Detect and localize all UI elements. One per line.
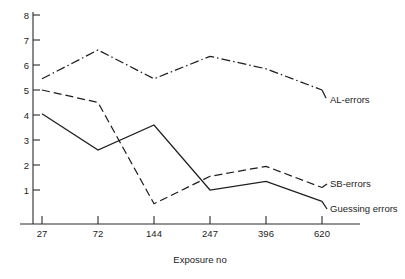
series-label-guessing-errors: Guessing errors xyxy=(330,203,398,214)
y-tick-label-8: 8 xyxy=(24,10,29,21)
y-tick-label-6: 6 xyxy=(24,60,29,71)
x-tick-label-27: 27 xyxy=(37,228,48,239)
y-tick-label-5: 5 xyxy=(24,85,29,96)
x-axis-title: Exposure no xyxy=(173,254,226,265)
x-tick-label-72: 72 xyxy=(93,228,104,239)
y-tick-label-3: 3 xyxy=(24,135,29,146)
y-tick-label-7: 7 xyxy=(24,35,29,46)
x-tick-label-247: 247 xyxy=(202,228,218,239)
leader-line-guessing-errors xyxy=(322,201,327,209)
series-line-guessing-errors xyxy=(42,114,322,202)
chart-canvas: 8 7 6 5 4 3 2 1 27 72 144 247 396 620 Ex… xyxy=(0,0,405,279)
y-tick-label-2: 2 xyxy=(24,160,29,171)
leader-line-al-errors xyxy=(322,90,327,100)
y-axis-ticks xyxy=(33,15,40,190)
x-axis-ticks xyxy=(42,216,322,224)
series-label-sb-errors: SB-errors xyxy=(330,178,371,189)
x-tick-label-396: 396 xyxy=(258,228,274,239)
line-chart: 8 7 6 5 4 3 2 1 27 72 144 247 396 620 Ex… xyxy=(0,0,405,279)
x-tick-label-144: 144 xyxy=(146,228,162,239)
series-label-al-errors: AL-errors xyxy=(330,94,370,105)
series-line-al-errors xyxy=(42,50,322,90)
x-tick-label-620: 620 xyxy=(314,228,330,239)
y-tick-label-4: 4 xyxy=(24,110,29,121)
y-tick-label-1: 1 xyxy=(24,185,29,196)
leader-line-sb-errors xyxy=(322,184,327,188)
